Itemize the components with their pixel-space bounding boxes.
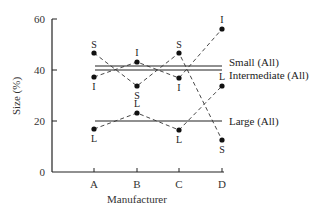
label-l-b: L — [134, 98, 140, 109]
label-i-b: I — [135, 47, 138, 58]
y-axis-title: Size (%) — [10, 77, 23, 116]
x-tick-b: B — [133, 178, 140, 190]
label-s-d: S — [219, 144, 225, 155]
y-ticks: 60 40 20 0 — [34, 13, 57, 178]
y-tick-40: 40 — [34, 64, 46, 76]
series-large: L L L L — [91, 71, 225, 145]
label-l-d: L — [219, 71, 225, 82]
reference-lines — [95, 66, 222, 121]
label-i-d: I — [220, 14, 223, 25]
legend-large: Large (All) — [229, 115, 279, 128]
label-l-c: L — [176, 134, 182, 145]
x-axis-title: Manufacturer — [107, 193, 167, 205]
label-i-c: I — [177, 82, 180, 93]
y-tick-20: 20 — [34, 115, 46, 127]
label-l-a: L — [91, 133, 97, 144]
chart: 60 40 20 0 A B C D Size (%) Manufacturer… — [0, 0, 323, 210]
series-small: S S S S — [91, 39, 225, 155]
x-tick-c: C — [175, 178, 182, 190]
label-s-c: S — [176, 39, 182, 50]
x-ticks: A B C D — [90, 168, 226, 190]
legend-intermediate: Intermediate (All) — [229, 69, 309, 82]
x-tick-d: D — [218, 178, 226, 190]
series-intermediate: I I I I — [91, 14, 224, 93]
x-tick-a: A — [90, 178, 98, 190]
y-tick-0: 0 — [40, 166, 46, 178]
legend-small: Small (All) — [229, 56, 279, 69]
label-i-a: I — [92, 81, 95, 92]
y-tick-60: 60 — [34, 13, 46, 25]
label-s-a: S — [91, 39, 97, 50]
